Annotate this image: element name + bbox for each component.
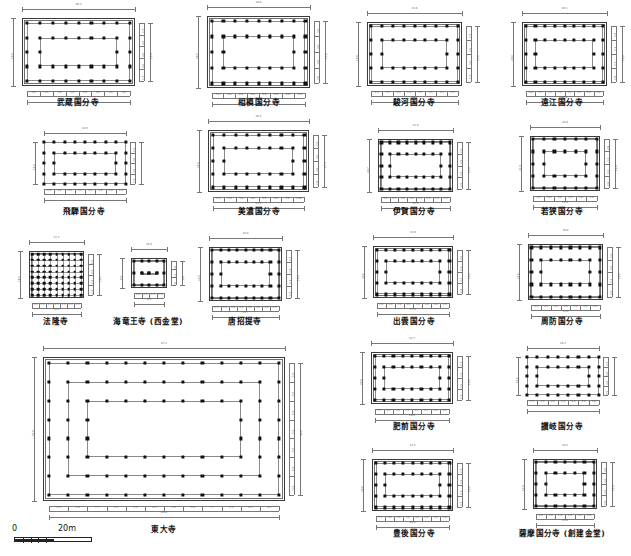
bay-tick [289,438,294,439]
plan-caption: 東大寺 [94,523,234,534]
column-dot [86,493,89,496]
scale-tick [46,538,47,543]
column-dot [258,456,261,459]
column-dot [182,361,185,364]
column-dot [182,399,185,402]
bay-tick [289,495,294,496]
column-dot [201,493,204,496]
column-dot [220,380,223,383]
column-dot [182,380,185,383]
column-dot [105,475,108,478]
column-dot [162,475,165,478]
bay-tick [289,476,294,477]
column-dot [182,456,185,459]
column-dot [124,475,127,478]
bay-tick [202,506,203,511]
dim-tick [285,346,286,351]
dim-tick [298,363,303,364]
column-dot [239,418,242,421]
column-dot [67,380,70,383]
column-dot [258,437,261,440]
column-dot [67,475,70,478]
bay-tick [68,506,69,511]
bay-label: 4.7 [264,507,274,510]
column-dot [182,475,185,478]
column-dot [143,361,146,364]
dim-tick [32,357,37,358]
bay-label-v: 5.5 [293,429,296,433]
column-dot [67,456,70,459]
column-dot [86,475,89,478]
column-dot [162,456,165,459]
column-dot [201,475,204,478]
column-dot [277,493,280,496]
dim-line-top [43,348,285,349]
scale-bar-box [14,537,92,542]
column-dot [86,399,89,402]
dim-tick [298,495,303,496]
column-dot [162,399,165,402]
column-dot [124,493,127,496]
column-dot [258,475,261,478]
bay-tick [222,506,223,511]
plan-todaiji: 87.15.55.57.75.55.55.55.55.57.75.55.54.7… [0,0,631,556]
column-dot [67,493,70,496]
column-dot [277,418,280,421]
bay-label: 5.5 [169,507,179,510]
scale-start-label: 0 [12,524,17,533]
bay-tick [289,401,294,402]
dim-tick [49,515,50,520]
bay-label: 5.5 [111,507,121,510]
column-dot [124,399,127,402]
bay-label: 5.5 [188,507,198,510]
bay-label: 5.5 [130,507,140,510]
bay-tick [289,363,294,364]
bay-label-v: 5.5 [293,448,296,452]
column-dot [239,361,242,364]
column-dot [124,361,127,364]
bay-label-v: 5.5 [293,392,296,396]
column-dot [182,493,185,496]
column-dot [67,399,70,402]
bay-tick [49,506,50,511]
column-dot [67,418,70,421]
bay-tick [145,506,146,511]
column-dot [239,437,242,440]
bay-tick [289,457,294,458]
column-dot [143,475,146,478]
bay-label-v: 5.5 [293,486,296,490]
bay-tick [87,506,88,511]
column-ring [87,401,240,458]
column-dot [220,493,223,496]
dim-label-inner-width: 80.8 [157,512,171,515]
column-dot [105,493,108,496]
scale-tick [23,538,24,543]
column-dot [47,475,50,478]
column-dot [143,380,146,383]
column-dot [143,399,146,402]
bay-label-v: 5.5 [293,467,296,471]
column-dot [239,493,242,496]
bay-label-v: 5.5 [293,373,296,377]
column-dot [277,475,280,478]
column-dot [220,456,223,459]
column-dot [86,418,89,421]
column-dot [86,361,89,364]
column-dot [258,418,261,421]
column-dot [105,380,108,383]
scale-end-label: 20m [58,524,76,533]
bay-label: 5.5 [226,507,236,510]
column-dot [277,456,280,459]
column-dot [47,437,50,440]
scale-tick [31,538,32,543]
bay-tick [289,420,294,421]
dim-line-left [34,357,35,501]
dim-line-right [300,363,301,495]
column-dot [277,399,280,402]
bay-label: 5.5 [149,507,159,510]
plan-sheet: 40.33.05.05.05.05.05.05.03.636.319.42.74… [0,0,631,556]
column-dot [47,361,50,364]
column-dot [47,380,50,383]
column-dot [220,475,223,478]
dim-tick [279,515,280,520]
